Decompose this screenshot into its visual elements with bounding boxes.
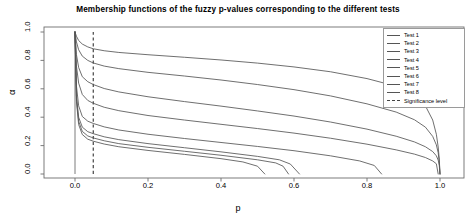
legend-item-test-1[interactable]: Test 1	[384, 31, 464, 39]
legend-line-icon	[387, 35, 400, 36]
legend-item-test-6[interactable]: Test 6	[384, 72, 464, 80]
x-tick-label-1: 0.2	[133, 181, 163, 190]
legend-label: Significance level	[404, 97, 447, 105]
legend-item-test-5[interactable]: Test 5	[384, 64, 464, 72]
legend-label: Test 8	[404, 88, 419, 96]
y-tick-label-5: 1.0	[23, 22, 32, 44]
legend-line-icon	[387, 43, 400, 44]
x-tick-label-5: 1.0	[425, 181, 455, 190]
x-tick-label-4: 0.8	[352, 181, 382, 190]
legend-line-icon	[387, 51, 400, 52]
legend-line-icon	[387, 84, 400, 85]
legend-item-test-2[interactable]: Test 2	[384, 39, 464, 47]
y-tick-label-1: 0.2	[23, 135, 32, 157]
x-tick-label-0: 0.0	[60, 181, 90, 190]
y-tick-label-0: 0.0	[23, 164, 32, 186]
series-line-test-6	[75, 32, 299, 174]
legend-label: Test 2	[404, 39, 419, 47]
legend-line-icon	[387, 100, 400, 101]
x-tick-label-3: 0.6	[279, 181, 309, 190]
legend-item-test-3[interactable]: Test 3	[384, 47, 464, 55]
chart-figure: Membership functions of the fuzzy p-valu…	[0, 0, 476, 221]
x-tick-label-2: 0.4	[206, 181, 236, 190]
legend-item-test-7[interactable]: Test 7	[384, 80, 464, 88]
series-line-test-7	[75, 32, 289, 174]
legend-label: Test 4	[404, 56, 419, 64]
legend-label: Test 6	[404, 72, 419, 80]
legend-line-icon	[387, 59, 400, 60]
legend-line-icon	[387, 92, 400, 93]
legend-label: Test 7	[404, 80, 419, 88]
legend-line-icon	[387, 67, 400, 68]
legend-item-test-4[interactable]: Test 4	[384, 56, 464, 64]
legend-label: Test 1	[404, 31, 419, 39]
series-line-test-8	[75, 32, 265, 174]
y-tick-label-3: 0.6	[23, 78, 32, 100]
legend-item-significance-level[interactable]: Significance level	[384, 97, 464, 105]
chart-legend: Test 1Test 2Test 3Test 4Test 5Test 6Test…	[383, 28, 465, 108]
legend-item-test-8[interactable]: Test 8	[384, 88, 464, 96]
legend-label: Test 3	[404, 47, 419, 55]
legend-line-icon	[387, 76, 400, 77]
y-tick-label-4: 0.8	[23, 50, 32, 72]
y-tick-label-2: 0.4	[23, 107, 32, 129]
legend-label: Test 5	[404, 64, 419, 72]
